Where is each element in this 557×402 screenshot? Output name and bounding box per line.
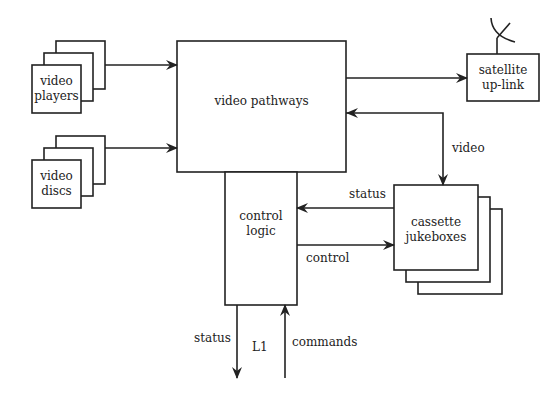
control-logic-label: control logic xyxy=(225,209,297,239)
edge-label-control: control xyxy=(306,251,349,266)
control-logic-line1: control xyxy=(225,209,297,224)
video-players-label: video players xyxy=(32,74,81,104)
cassette-jukeboxes-label: cassette jukeboxes xyxy=(394,215,478,245)
video-discs-line1: video xyxy=(32,169,81,184)
control-logic-line2: logic xyxy=(225,224,297,239)
jukeboxes-line2: jukeboxes xyxy=(394,230,478,245)
edge-label-status-out: status xyxy=(194,331,231,346)
edge-label-video: video xyxy=(452,141,485,156)
edge-label-commands: commands xyxy=(292,335,357,350)
video-pathways-label: video pathways xyxy=(177,94,346,109)
video-players-line2: players xyxy=(32,89,81,104)
video-discs-line2: discs xyxy=(32,184,81,199)
arrow-video-bidirectional xyxy=(346,113,443,185)
video-players-line1: video xyxy=(32,74,81,89)
video-discs-label: video discs xyxy=(32,169,81,199)
diagram-canvas xyxy=(0,0,557,402)
satellite-line1: satellite xyxy=(467,63,539,78)
jukeboxes-line1: cassette xyxy=(394,215,478,230)
edge-label-status-jukebox: status xyxy=(349,187,386,202)
antenna-icon xyxy=(491,18,515,54)
satellite-line2: up-link xyxy=(467,78,539,93)
edge-label-l1: L1 xyxy=(252,340,268,355)
satellite-uplink-label: satellite up-link xyxy=(467,63,539,93)
